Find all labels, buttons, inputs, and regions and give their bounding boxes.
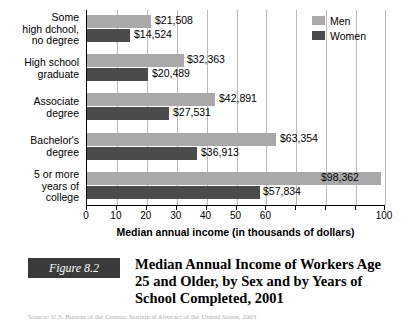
- category-label-line: degree: [0, 147, 79, 159]
- bar-men[interactable]: [87, 133, 276, 146]
- category-label-line: college: [0, 192, 79, 204]
- category-label-high-school-graduate: High school graduate: [0, 57, 79, 80]
- bar-value-men: $98,362: [321, 171, 359, 184]
- figure-page: Some high dchool, no degree High school …: [0, 0, 410, 323]
- legend-item-women[interactable]: Women: [312, 29, 366, 42]
- legend-item-men[interactable]: Men: [312, 14, 366, 27]
- bar-men[interactable]: [87, 15, 151, 28]
- category-label-some-high-school: Some high dchool, no degree: [0, 12, 79, 47]
- figure-caption-text: Median Annual Income of Workers Age 25 a…: [135, 256, 385, 307]
- x-axis-title: Median annual income (in thousands of do…: [86, 226, 385, 238]
- bar-value-women: $14,524: [134, 28, 172, 41]
- bar-value-men: $32,363: [187, 53, 225, 66]
- category-label-line: degree: [0, 108, 79, 120]
- bar-women[interactable]: [87, 29, 130, 42]
- bar-women[interactable]: [87, 186, 260, 199]
- legend-swatch-women-icon: [312, 31, 325, 40]
- bar-men[interactable]: [87, 54, 184, 67]
- legend-label-men: Men: [330, 15, 350, 27]
- bar-value-men: $42,891: [219, 92, 257, 105]
- bar-value-men: $63,354: [280, 132, 318, 145]
- axis-tick-label-60: 60: [245, 210, 285, 221]
- bar-value-women: $27,531: [173, 106, 211, 119]
- axis-tick-label-100: 100: [364, 210, 404, 221]
- category-label-line: Some: [0, 12, 79, 24]
- legend: Men Women: [312, 14, 366, 44]
- bar-group: $63,354 $36,913: [87, 130, 385, 169]
- bar-chart: Some high dchool, no degree High school …: [0, 0, 410, 248]
- bar-value-men: $21,508: [155, 14, 193, 27]
- bar-women[interactable]: [87, 68, 148, 81]
- category-label-associate-degree: Associate degree: [0, 96, 79, 119]
- figure-source-note: Source: U.S. Bureau of the Census, Stati…: [28, 313, 388, 320]
- category-label-line: High school: [0, 57, 79, 69]
- axis-tick: [355, 206, 356, 210]
- bar-men[interactable]: [87, 93, 215, 106]
- bar-value-women: $57,834: [263, 185, 301, 198]
- category-label-bachelors-degree: Bachelor's degree: [0, 135, 79, 158]
- figure-number-badge: Figure 8.2: [28, 258, 120, 278]
- bar-women[interactable]: [87, 107, 169, 120]
- legend-label-women: Women: [330, 30, 366, 42]
- category-label-5-or-more-years-college: 5 or more years of college: [0, 169, 79, 204]
- bar-value-women: $20,489: [152, 67, 190, 80]
- gridline: [385, 10, 386, 205]
- category-label-line: 5 or more: [0, 169, 79, 181]
- category-label-line: Bachelor's: [0, 135, 79, 147]
- axis-tick: [295, 206, 296, 210]
- axis-tick: [325, 206, 326, 210]
- bar-group: $42,891 $27,531: [87, 90, 385, 129]
- category-label-line: graduate: [0, 69, 79, 81]
- figure-caption: Figure 8.2 Median Annual Income of Worke…: [0, 256, 410, 307]
- legend-swatch-men-icon: [312, 16, 325, 25]
- category-label-line: no degree: [0, 35, 79, 47]
- category-label-line: Associate: [0, 96, 79, 108]
- bar-group: $98,362 $57,834: [87, 169, 385, 208]
- bar-women[interactable]: [87, 147, 197, 160]
- bar-value-women: $36,913: [201, 146, 239, 159]
- bar-group: $32,363 $20,489: [87, 51, 385, 90]
